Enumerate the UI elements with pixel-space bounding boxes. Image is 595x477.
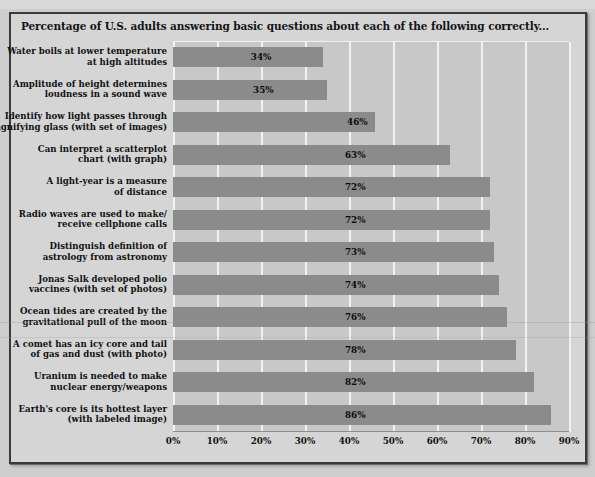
bar-row: Radio waves are used to make/ receive ce… [11,204,585,237]
x-tick-label: 50% [383,436,404,446]
bar[interactable] [173,177,490,197]
x-axis: 0%10%20%30%40%50%60%70%80%90% [173,431,569,454]
x-tick-label: 10% [207,436,228,446]
bar-row: Amplitude of height determines loudness … [11,74,585,107]
bar[interactable] [173,307,507,327]
bar[interactable] [173,145,450,165]
bar-row: Jonas Salk developed polio vaccines (wit… [11,269,585,302]
bar-value-label: 86% [345,410,366,420]
bar-row: Earth's core is its hottest layer (with … [11,399,585,432]
category-label: Amplitude of height determines loudness … [0,79,167,100]
screenshot-page: Percentage of U.S. adults answering basi… [0,0,595,477]
x-tick-label: 40% [339,436,360,446]
category-label: Ocean tides are created by the gravitati… [0,307,167,328]
category-label: Radio waves are used to make/ receive ce… [0,209,167,230]
x-tick-label: 30% [295,436,316,446]
bar-value-label: 72% [345,182,366,192]
plot-area: Water boils at lower temperature at high… [11,41,585,439]
page-margin [0,0,595,9]
x-tick-label: 60% [427,436,448,446]
category-label: Can interpret a scatterplot chart (with … [0,144,167,165]
bar[interactable] [173,47,323,67]
bar[interactable] [173,112,375,132]
bar[interactable] [173,242,494,262]
bar-row: Ocean tides are created by the gravitati… [11,301,585,334]
bar-row: Uranium is needed to make nuclear energy… [11,366,585,399]
category-label: Jonas Salk developed polio vaccines (wit… [0,274,167,295]
x-tick-label: 70% [471,436,492,446]
bar-value-label: 73% [345,247,366,257]
bar-value-label: 78% [345,345,366,355]
category-label: Distinguish definition of astrology from… [0,242,167,263]
bar[interactable] [173,210,490,230]
bar-value-label: 82% [345,377,366,387]
bar-value-label: 35% [253,85,274,95]
category-label: Water boils at lower temperature at high… [0,47,167,68]
x-tick-label: 80% [515,436,536,446]
category-label: Earth's core is its hottest layer (with … [0,404,167,425]
bar-value-label: 76% [345,312,366,322]
bar-row: Water boils at lower temperature at high… [11,41,585,74]
x-tick-label: 90% [559,436,580,446]
bar[interactable] [173,275,499,295]
bar-row: A comet has an icy core and tail of gas … [11,334,585,367]
category-label: A light-year is a measure of distance [0,177,167,198]
bar-row: Distinguish definition of astrology from… [11,236,585,269]
bar-value-label: 63% [345,150,366,160]
category-label: Identify how light passes through magnif… [0,112,167,133]
category-label: A comet has an icy core and tail of gas … [0,339,167,360]
bar-value-label: 72% [345,215,366,225]
bar-value-label: 34% [251,52,272,62]
x-tick-label: 0% [166,436,180,446]
chart-figure-frame: Percentage of U.S. adults answering basi… [9,12,587,464]
bar-value-label: 46% [347,117,368,127]
category-label: Uranium is needed to make nuclear energy… [0,372,167,393]
chart-title: Percentage of U.S. adults answering basi… [21,20,571,32]
bar-row: Identify how light passes through magnif… [11,106,585,139]
bar-row: A light-year is a measure of distance72% [11,171,585,204]
bar-row: Can interpret a scatterplot chart (with … [11,139,585,172]
bar-value-label: 74% [345,280,366,290]
x-tick-label: 20% [251,436,272,446]
bar[interactable] [173,80,327,100]
